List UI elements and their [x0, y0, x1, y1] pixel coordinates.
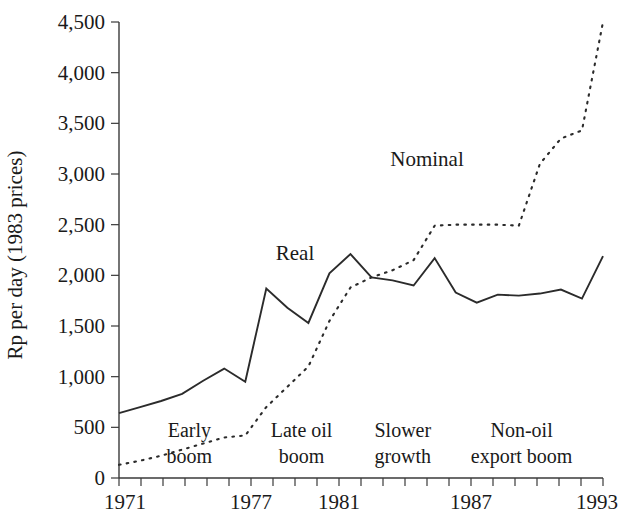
annotation-line2: boom: [279, 445, 325, 467]
y-tick-label: 500: [74, 415, 106, 439]
x-tick-label: 1993: [576, 490, 618, 514]
line-chart-figure: Rp per day (1983 prices) 05001,0001,5002…: [0, 0, 631, 527]
annotation-line2: growth: [374, 445, 431, 468]
x-tick-label: 1987: [450, 490, 492, 514]
y-tick-label: 2,500: [58, 213, 105, 237]
x-tick-label: 1977: [230, 490, 272, 514]
series-label-nominal: Nominal: [390, 147, 464, 171]
y-tick-label: 4,000: [58, 61, 105, 85]
annotation-line2: export boom: [471, 445, 573, 468]
x-tick-label: 1981: [318, 490, 360, 514]
annotation-line1: Early: [168, 419, 211, 442]
y-axis-title: Rp per day (1983 prices): [3, 151, 27, 360]
x-tick-label: 1971: [104, 490, 146, 514]
annotation-line1: Late oil: [271, 419, 333, 441]
annotation-line1: Slower: [374, 419, 431, 441]
y-tick-label: 3,000: [58, 162, 105, 186]
annotation-line2: boom: [167, 445, 213, 467]
y-tick-label: 1,500: [58, 314, 105, 338]
y-tick-label: 1,000: [58, 365, 105, 389]
y-tick-label: 0: [95, 466, 106, 490]
y-tick-label: 3,500: [58, 111, 105, 135]
annotation-line1: Non-oil: [490, 419, 553, 441]
series-label-real: Real: [276, 241, 315, 265]
chart-container: Rp per day (1983 prices) 05001,0001,5002…: [0, 0, 631, 527]
y-tick-label: 4,500: [58, 10, 105, 34]
y-tick-label: 2,000: [58, 263, 105, 287]
